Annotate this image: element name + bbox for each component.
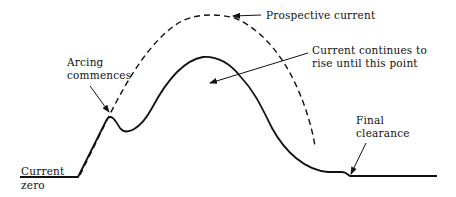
prospective-current-curve <box>80 15 315 175</box>
continues-label-line2: rise until this point <box>312 57 427 70</box>
zero-label-line1: Current <box>21 164 64 178</box>
final-label-line2: clearance <box>356 127 410 140</box>
arcing-arrow <box>90 86 109 112</box>
fuse-current-diagram <box>0 0 456 197</box>
continues-label-line1: Current continues to <box>312 44 427 57</box>
final-clearance-label: Final clearance <box>356 114 410 139</box>
final-label-line1: Final <box>356 114 410 127</box>
prospective-current-label: Prospective current <box>266 9 375 22</box>
prospective-arrow <box>233 15 261 16</box>
current-continues-label: Current continues to rise until this poi… <box>312 44 427 69</box>
final-clearance-arrow <box>351 143 366 174</box>
prospective-label-text: Prospective current <box>266 9 375 22</box>
arcing-commences-label: Arcing commences <box>67 56 131 81</box>
current-zero-label: Current zero <box>21 164 64 192</box>
continues-arrow <box>210 53 308 83</box>
arcing-label-line2: commences <box>67 69 131 82</box>
arcing-label-line1: Arcing <box>67 56 131 69</box>
zero-label-line2: zero <box>21 178 64 192</box>
